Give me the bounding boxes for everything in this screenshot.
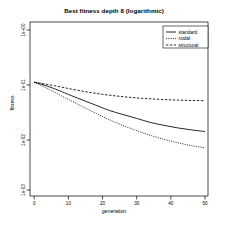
x-tick-label-3: 30 [134,201,140,206]
x-axis-ticks [34,196,205,200]
x-axis-label: generation [0,208,228,214]
y-tick-label-text: 1e-02 [21,134,26,146]
legend-label-standard: standard [179,30,198,35]
y-axis-label: fitness [9,83,15,123]
y-tick-label-0: 1e+00 [21,23,26,36]
legend-label-nodal: nodal [179,36,191,41]
plot-area: 1e+00 1e-01 1e-02 1e-03 0 10 20 30 40 50 [0,0,228,232]
data-series-group [34,82,205,148]
y-tick-label-text: 1e-01 [21,79,26,91]
x-tick-label-0: 0 [33,201,36,206]
x-tick-label-5: 50 [202,201,208,206]
y-tick-label-text: 1e+00 [21,23,26,36]
x-tick-label-4: 40 [168,201,174,206]
y-tick-label-1: 1e-01 [21,79,26,91]
y-axis-ticks [27,30,31,190]
y-tick-label-3: 1e-03 [21,184,26,196]
series-line-nodal [34,82,205,148]
x-tick-label-1: 10 [66,201,72,206]
chart-legend: standardnodalstructural [163,26,208,48]
chart-figure: Best fitness depth 8 (logarithmic) 1e+00… [0,0,228,232]
x-tick-label-2: 20 [100,201,106,206]
series-line-structural [34,82,205,100]
y-tick-label-text: 1e-03 [21,184,26,196]
legend-label-structural: structural [179,43,199,48]
y-tick-label-2: 1e-02 [21,134,26,146]
